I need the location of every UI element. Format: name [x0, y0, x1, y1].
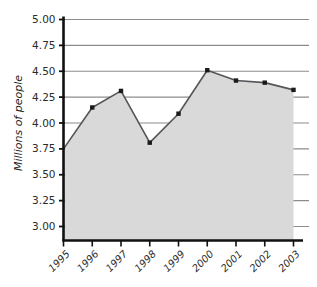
y-axis-tick-label: 3.25	[32, 194, 55, 206]
y-axis-tick-label: 4.50	[32, 65, 55, 77]
y-axis-tick-label: 4.25	[32, 91, 55, 103]
y-axis-title: Millions of people	[12, 75, 25, 171]
y-axis-tick-label: 4.00	[32, 117, 55, 129]
y-axis-tick-labels: 3.003.253.503.754.004.254.504.755.00	[32, 13, 55, 232]
data-point-marker	[263, 80, 267, 84]
y-axis-tick-label: 5.00	[32, 13, 55, 25]
data-point-marker	[205, 68, 209, 72]
y-axis-tick-label: 3.50	[32, 168, 55, 180]
area-chart: 3.003.253.503.754.004.254.504.755.00 199…	[0, 0, 317, 287]
data-point-marker	[119, 89, 123, 93]
data-point-marker	[176, 111, 180, 115]
data-point-marker	[234, 78, 238, 82]
chart-container: 3.003.253.503.754.004.254.504.755.00 199…	[0, 0, 317, 287]
data-point-marker	[148, 140, 152, 144]
data-point-marker	[291, 88, 295, 92]
y-axis-tick-label: 3.75	[32, 142, 55, 154]
y-axis-tick-label: 3.00	[32, 220, 55, 232]
data-point-marker	[90, 105, 94, 109]
y-axis-tick-label: 4.75	[32, 39, 55, 51]
